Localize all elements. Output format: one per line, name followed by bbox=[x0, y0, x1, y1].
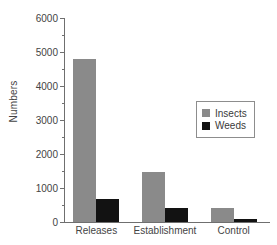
y-tick-major bbox=[60, 154, 64, 155]
x-axis-line bbox=[64, 222, 270, 223]
y-tick-minor bbox=[62, 103, 65, 104]
y-tick-major bbox=[60, 120, 64, 121]
y-tick-label: 6000 bbox=[36, 13, 58, 24]
legend-item-insects: Insects bbox=[202, 108, 247, 119]
y-tick-major bbox=[60, 188, 64, 189]
y-axis-title: Numbers bbox=[8, 67, 19, 137]
bar-establishment-weeds bbox=[165, 208, 188, 222]
y-tick-major bbox=[60, 222, 64, 223]
y-tick-minor bbox=[62, 205, 65, 206]
y-tick-major bbox=[60, 86, 64, 87]
legend-swatch-weeds bbox=[202, 122, 210, 130]
y-tick-label: 1000 bbox=[36, 183, 58, 194]
y-tick-minor bbox=[62, 69, 65, 70]
y-tick-label: 0 bbox=[52, 217, 58, 228]
x-tick-label: Releases bbox=[75, 225, 117, 236]
y-tick-minor bbox=[62, 137, 65, 138]
legend-label-insects: Insects bbox=[215, 108, 247, 119]
y-axis-line bbox=[64, 18, 65, 223]
legend-label-weeds: Weeds bbox=[215, 120, 246, 131]
y-tick-label: 4000 bbox=[36, 81, 58, 92]
y-tick-minor bbox=[62, 171, 65, 172]
y-tick-major bbox=[60, 52, 64, 53]
legend-swatch-insects bbox=[202, 109, 210, 117]
y-tick-label: 3000 bbox=[36, 115, 58, 126]
y-tick-minor bbox=[62, 35, 65, 36]
y-tick-label: 2000 bbox=[36, 149, 58, 160]
y-tick-major bbox=[60, 18, 64, 19]
x-tick-label: Establishment bbox=[134, 225, 197, 236]
bar-establishment-insects bbox=[142, 172, 165, 222]
bar-releases-weeds bbox=[96, 199, 119, 222]
y-tick-label: 5000 bbox=[36, 47, 58, 58]
bar-control-insects bbox=[211, 208, 234, 222]
legend-item-weeds: Weeds bbox=[202, 120, 247, 131]
bar-control-weeds bbox=[234, 219, 257, 222]
bar-chart: Numbers 0100020003000400050006000 Releas… bbox=[0, 0, 277, 245]
bar-releases-insects bbox=[73, 59, 96, 222]
x-tick-label: Control bbox=[218, 225, 250, 236]
legend: Insects Weeds bbox=[196, 101, 255, 138]
